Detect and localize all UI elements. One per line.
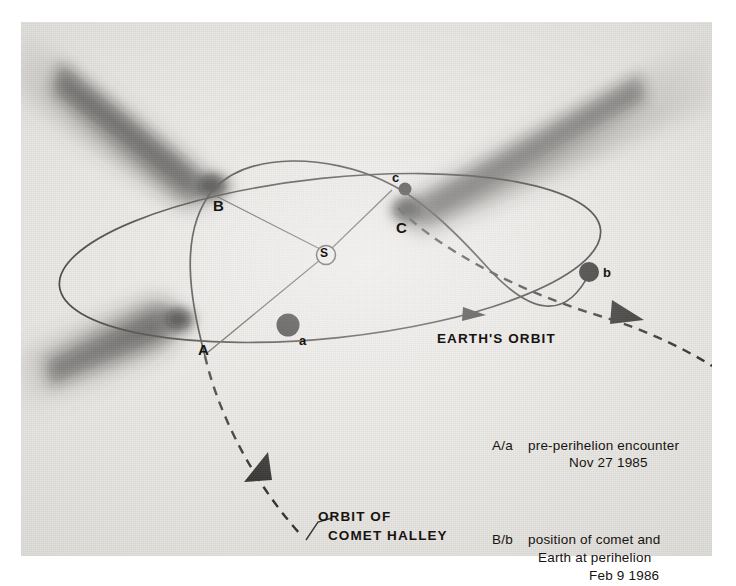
sun-sight-lines [207, 190, 392, 353]
comet-orbit-direction-arrow-right [610, 300, 644, 324]
comet-orbit-direction-arrow-left [244, 452, 272, 482]
photograph-plate [21, 22, 712, 556]
comet-tail-B [21, 30, 239, 206]
figure-canvas: S B A C a b c EARTH'S ORBIT ORBIT OF COM… [0, 0, 736, 586]
orbit-diagram-svg [21, 22, 712, 556]
earth-dot-c [399, 183, 412, 196]
earth-dot-b [579, 262, 599, 282]
earth-dot-a [277, 314, 300, 337]
comet-tail-A [21, 300, 203, 412]
comet-orbit-path [190, 161, 712, 534]
comet-tail-C [382, 34, 712, 231]
legend-date-B: Feb 9 1986 [589, 567, 659, 584]
sun-marker [317, 246, 336, 265]
comet-orbit-caption-leader [306, 518, 332, 540]
